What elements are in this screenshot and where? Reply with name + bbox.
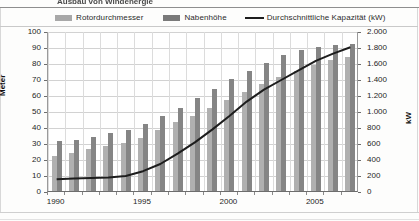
x-tick-label: 1995 xyxy=(125,197,159,206)
line-series-kapazitaet xyxy=(48,32,359,192)
y-tick-label-right: 600 xyxy=(367,140,401,148)
chart-legend: Rotordurchmesser Nabenhöhe Durchschnittl… xyxy=(55,11,415,24)
y-tick-label-left: 30 xyxy=(15,140,41,148)
y-tick-label-left: 70 xyxy=(15,76,41,84)
footer-divider-2 xyxy=(0,219,419,220)
x-tick xyxy=(272,192,273,195)
x-tick xyxy=(185,192,186,195)
x-tick xyxy=(133,192,134,195)
x-tick xyxy=(82,192,83,195)
legend-item-kapazitaet: Durchschnittliche Kapazität (kW) xyxy=(245,13,386,22)
legend-item-nabenhoehe: Nabenhöhe xyxy=(163,13,226,22)
y-tick-label-right: 400 xyxy=(367,156,401,164)
legend-label-kapazitaet: Durchschnittliche Kapazität (kW) xyxy=(267,13,386,22)
plot-area xyxy=(47,32,358,192)
x-tick xyxy=(151,192,152,195)
x-tick xyxy=(116,192,117,195)
y-tick-label-right: 1.600 xyxy=(367,60,401,68)
y-tick-label-right: 1.800 xyxy=(367,44,401,52)
x-tick xyxy=(99,192,100,195)
y-tick-label-left: 100 xyxy=(15,28,41,36)
y-axis-title-left: Meter xyxy=(0,75,7,96)
y-tick-label-right: 200 xyxy=(367,172,401,180)
chart-page: Ausbau von Windenergie Rotordurchmesser … xyxy=(0,0,419,221)
legend-swatch-icon-nabenhoehe xyxy=(163,15,180,21)
x-tick xyxy=(341,192,342,195)
x-tick xyxy=(168,192,169,195)
y-tick-label-left: 20 xyxy=(15,156,41,164)
x-tick xyxy=(323,192,324,195)
footer-divider-1 xyxy=(0,212,419,213)
y-tick-label-left: 80 xyxy=(15,60,41,68)
chart-title-text: Ausbau von Windenergie xyxy=(57,0,267,6)
legend-label-nabenhoehe: Nabenhöhe xyxy=(184,13,226,22)
y-tick-label-left: 0 xyxy=(15,188,41,196)
y-tick-label-right: 2.000 xyxy=(367,28,401,36)
kapazitaet-line-path xyxy=(57,47,351,179)
y-tick-label-right: 0 xyxy=(367,188,401,196)
page-edge-right xyxy=(417,8,418,213)
y-tick-label-left: 60 xyxy=(15,92,41,100)
y-tick-label-left: 50 xyxy=(15,108,41,116)
y-tick-label-left: 90 xyxy=(15,44,41,52)
y-tick-label-right: 1.400 xyxy=(367,76,401,84)
chart-title-clipped: Ausbau von Windenergie xyxy=(57,0,267,6)
y-tick-label-right: 1.000 xyxy=(367,108,401,116)
y-axis-title-right: kW xyxy=(404,112,413,124)
x-tick-label: 1990 xyxy=(39,197,73,206)
x-tick-label: 2005 xyxy=(298,197,332,206)
x-tick xyxy=(289,192,290,195)
y-tick-label-left: 10 xyxy=(15,172,41,180)
page-edge-left xyxy=(0,8,1,213)
x-tick-label: 2000 xyxy=(211,197,245,206)
y-tick-right xyxy=(358,192,361,193)
y-tick-label-left: 40 xyxy=(15,124,41,132)
y-tick-label-right: 1.200 xyxy=(367,92,401,100)
legend-item-rotordurchmesser: Rotordurchmesser xyxy=(55,13,143,22)
x-tick xyxy=(306,192,307,195)
legend-label-rotordurchmesser: Rotordurchmesser xyxy=(76,13,143,22)
x-tick xyxy=(47,192,48,195)
x-tick xyxy=(203,192,204,195)
y-tick-label-right: 800 xyxy=(367,124,401,132)
x-tick xyxy=(237,192,238,195)
legend-line-icon-kapazitaet xyxy=(245,17,264,19)
x-tick xyxy=(254,192,255,195)
legend-swatch-icon-rotordurchmesser xyxy=(55,15,72,21)
x-tick xyxy=(220,192,221,195)
x-tick xyxy=(64,192,65,195)
